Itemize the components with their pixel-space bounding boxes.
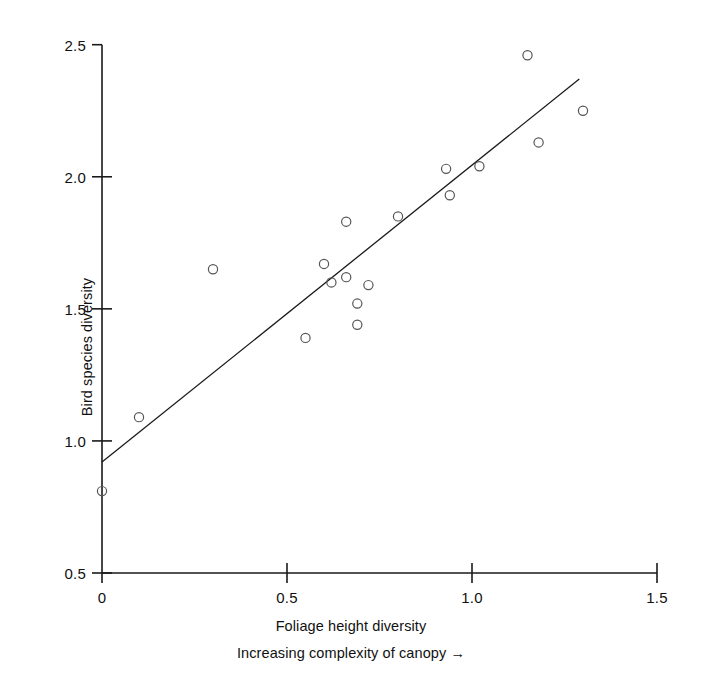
data-points: [97, 51, 587, 496]
data-point: [301, 333, 310, 342]
data-point: [578, 106, 587, 115]
data-point: [342, 217, 351, 226]
x-tick-label: 0: [98, 589, 107, 606]
chart-figure: 0.51.01.52.02.5 00.51.01.5 Bird species …: [0, 0, 702, 693]
data-point: [342, 273, 351, 282]
axis-ticks: [92, 45, 657, 583]
axis-lines: [102, 45, 657, 573]
x-tick-label: 1.0: [461, 589, 482, 606]
x-tick-label: 0.5: [276, 589, 297, 606]
data-point: [534, 138, 543, 147]
x-axis-subtitle: Increasing complexity of canopy →: [0, 645, 702, 661]
data-point: [475, 162, 484, 171]
data-point: [327, 278, 336, 287]
data-point: [523, 51, 532, 60]
data-point: [134, 413, 143, 422]
data-point: [353, 299, 362, 308]
data-point: [393, 212, 402, 221]
y-tick-label: 2.5: [46, 36, 86, 53]
y-axis-title: Bird species diversity: [79, 277, 95, 415]
data-point: [445, 191, 454, 200]
y-tick-label: 2.0: [46, 168, 86, 185]
y-tick-label: 0.5: [46, 565, 86, 582]
y-tick-label: 1.0: [46, 432, 86, 449]
data-point: [353, 320, 362, 329]
x-tick-label: 1.5: [646, 589, 667, 606]
data-point: [442, 164, 451, 173]
data-point: [208, 265, 217, 274]
x-axis-title: Foliage height diversity: [0, 618, 702, 634]
regression-line: [102, 79, 579, 462]
data-point: [319, 259, 328, 268]
data-point: [364, 280, 373, 289]
